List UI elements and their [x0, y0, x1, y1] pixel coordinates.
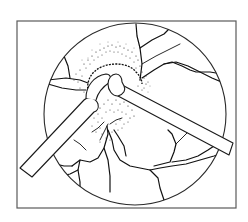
- fundus-illustration: [0, 0, 248, 222]
